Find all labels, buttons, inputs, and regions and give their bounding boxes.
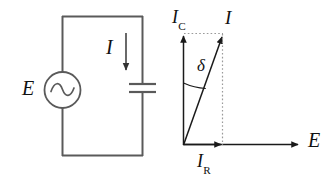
phasor-label-ir: IR	[197, 152, 210, 174]
phasor-label-i: I	[225, 8, 231, 27]
source-label-e: E	[22, 78, 34, 98]
phasor-label-ic: IC	[172, 8, 185, 30]
phasor-label-ir-subscript: R	[203, 164, 210, 176]
figure-root: E I IC I δ IR E	[0, 0, 336, 181]
angle-arc-delta	[184, 83, 206, 89]
phasor-label-ic-subscript: C	[178, 20, 185, 32]
figure-canvas	[0, 0, 336, 181]
phasor-label-e-axis: E	[308, 130, 320, 150]
circuit-current-label-i: I	[106, 37, 113, 57]
circuit-group	[45, 16, 157, 156]
phasor-group	[183, 34, 298, 146]
phasor-label-delta: δ	[197, 57, 205, 74]
phasor-vector-i	[184, 37, 223, 145]
